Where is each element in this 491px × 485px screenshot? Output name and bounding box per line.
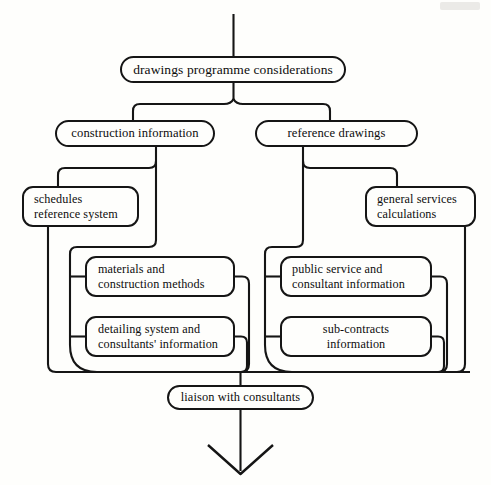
- node-label-line2: construction methods: [98, 277, 205, 291]
- scan-artifact: [440, 2, 480, 10]
- node-detailing-system-and-consultants-information[interactable]: detailing system and consultants' inform…: [85, 316, 235, 357]
- node-label-line1: schedules: [34, 192, 82, 206]
- node-label-line1: public service and: [292, 262, 382, 276]
- node-label-line1: general services: [377, 192, 457, 206]
- flow-diagram: drawings programme considerations constr…: [0, 0, 491, 485]
- node-label-line2: consultants' information: [98, 337, 218, 351]
- node-construction-information[interactable]: construction information: [55, 120, 215, 147]
- node-drawings-programme-considerations[interactable]: drawings programme considerations: [120, 56, 346, 83]
- node-sub-contracts-information[interactable]: sub-contracts information: [280, 316, 432, 357]
- node-public-service-and-consultant-information[interactable]: public service and consultant informatio…: [280, 256, 432, 297]
- node-materials-and-construction-methods[interactable]: materials and construction methods: [85, 256, 235, 297]
- wire-fork-right: [234, 99, 331, 120]
- node-label: liaison with consultants: [181, 390, 300, 405]
- node-label-line2: information: [327, 337, 386, 351]
- node-schedules-reference-system[interactable]: schedules reference system: [22, 186, 139, 227]
- node-label-line1: materials and: [98, 262, 165, 276]
- node-label-line1: sub-contracts: [323, 322, 389, 336]
- node-label-line2: calculations: [377, 207, 436, 221]
- node-label: reference drawings: [288, 126, 386, 141]
- node-liaison-with-consultants[interactable]: liaison with consultants: [167, 385, 314, 410]
- wire-to-schedules: [58, 161, 156, 186]
- node-label: drawings programme considerations: [133, 62, 333, 78]
- node-label: construction information: [71, 126, 198, 141]
- node-label-line2: reference system: [34, 207, 118, 221]
- wire-fork-left: [133, 99, 234, 120]
- wire-to-general: [303, 161, 397, 186]
- node-general-services-calculations[interactable]: general services calculations: [365, 186, 476, 227]
- node-reference-drawings[interactable]: reference drawings: [255, 120, 418, 147]
- node-label-line2: consultant information: [292, 277, 405, 291]
- node-label-line1: detailing system and: [98, 322, 200, 336]
